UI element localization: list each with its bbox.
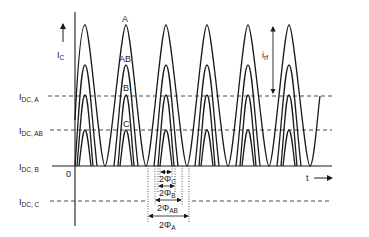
origin-label: 0 <box>66 169 71 179</box>
amplifier-class-collector-current-diagram: IC A AB B C irf IDC, A IDC, AB IDC, B ID… <box>0 0 369 237</box>
curve-label-a: A <box>122 14 128 24</box>
dc-level-c-label: IDC, C <box>19 197 40 208</box>
curve-label-ab: AB <box>119 54 131 64</box>
x-axis-label: t <box>306 173 309 183</box>
angle-label-ab: 2ΦAB <box>157 203 178 214</box>
dc-level-ab-label: IDC, AB <box>19 126 43 137</box>
dc-level-a-label: IDC, A <box>19 92 39 103</box>
curve-label-b: B <box>123 83 129 93</box>
curve-label-c: C <box>123 119 130 129</box>
dc-level-b-label: IDC, B <box>19 162 39 173</box>
angle-label-a: 2ΦA <box>159 220 176 231</box>
angle-label-b: 2ΦB <box>159 188 176 199</box>
ripple-label: irf <box>262 50 268 61</box>
angle-label-c: 2ΦC <box>159 174 176 185</box>
curves-class-b <box>77 95 297 166</box>
y-axis-label: IC <box>57 50 65 61</box>
